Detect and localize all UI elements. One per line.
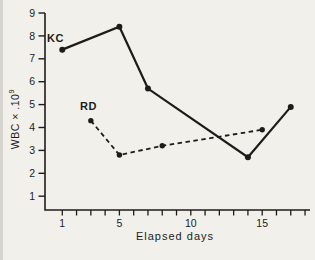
y-tick-label: 4 [29, 121, 35, 133]
data-point-kc [116, 24, 122, 30]
y-axis-label-exponent: 9 [7, 89, 16, 94]
x-tick-label: 10 [185, 217, 197, 229]
x-axis-label: Elapsed days [110, 230, 240, 242]
y-tick-label: 1 [29, 190, 35, 202]
series-label-kc: KC [47, 32, 64, 44]
data-point-kc [145, 86, 151, 92]
data-point-rd [260, 127, 265, 132]
x-tick-label: 5 [116, 217, 122, 229]
x-tick-label: 15 [256, 217, 268, 229]
y-tick-label: 6 [29, 75, 35, 87]
data-point-kc [288, 104, 294, 110]
data-point-rd [117, 152, 122, 157]
y-axis-label-base: WBC × .10 [9, 94, 21, 150]
data-point-rd [160, 143, 165, 148]
data-point-rd [88, 118, 93, 123]
data-point-kc [59, 47, 65, 53]
wbc-line-chart-figure: 123456789151015 WBC × .109 Elapsed days … [0, 0, 315, 260]
y-axis-label: WBC × .109 [7, 58, 21, 180]
y-tick-label: 7 [29, 52, 35, 64]
x-tick-label: 1 [59, 217, 65, 229]
series-label-rd: RD [80, 100, 97, 112]
y-tick-label: 8 [29, 30, 35, 42]
y-tick-label: 9 [29, 7, 35, 19]
y-tick-label: 2 [29, 167, 35, 179]
series-line-kc [62, 27, 290, 158]
data-point-kc [245, 154, 251, 160]
y-tick-label: 3 [29, 144, 35, 156]
y-tick-label: 5 [29, 98, 35, 110]
